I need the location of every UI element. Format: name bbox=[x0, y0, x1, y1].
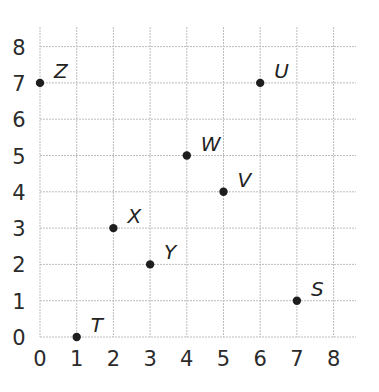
point-label: X bbox=[126, 204, 142, 228]
point-marker bbox=[256, 79, 264, 87]
x-tick-label: 3 bbox=[143, 347, 156, 371]
point-marker bbox=[219, 188, 227, 196]
point-marker bbox=[293, 297, 301, 305]
data-point-w: W bbox=[183, 132, 222, 160]
y-tick-label: 3 bbox=[12, 217, 25, 241]
point-marker bbox=[73, 333, 81, 341]
point-label: Z bbox=[53, 59, 69, 83]
y-axis-ticks: 012345678 bbox=[12, 36, 25, 350]
coordinate-grid: 012345678 012345678 ZUWVXYST bbox=[0, 0, 379, 392]
point-marker bbox=[109, 224, 117, 232]
y-tick-label: 4 bbox=[12, 181, 25, 205]
x-tick-label: 5 bbox=[217, 347, 230, 371]
y-tick-label: 5 bbox=[12, 145, 25, 169]
point-label: Y bbox=[164, 240, 178, 264]
y-tick-label: 1 bbox=[12, 290, 25, 314]
point-label: W bbox=[201, 132, 222, 156]
point-label: T bbox=[91, 313, 105, 337]
x-tick-label: 6 bbox=[254, 347, 267, 371]
grid-lines bbox=[40, 27, 356, 337]
x-tick-label: 0 bbox=[33, 347, 46, 371]
point-marker bbox=[146, 260, 154, 268]
data-points: ZUWVXYST bbox=[36, 59, 324, 341]
y-tick-label: 2 bbox=[12, 253, 25, 277]
x-tick-label: 2 bbox=[107, 347, 120, 371]
x-tick-label: 1 bbox=[70, 347, 83, 371]
point-label: U bbox=[274, 59, 289, 83]
y-tick-label: 0 bbox=[12, 326, 25, 350]
x-tick-label: 8 bbox=[327, 347, 340, 371]
y-tick-label: 7 bbox=[12, 72, 25, 96]
x-axis-ticks: 012345678 bbox=[33, 347, 340, 371]
point-marker bbox=[183, 151, 191, 159]
point-marker bbox=[36, 79, 44, 87]
x-tick-label: 4 bbox=[180, 347, 193, 371]
x-tick-label: 7 bbox=[290, 347, 303, 371]
point-label: S bbox=[311, 277, 324, 301]
y-tick-label: 6 bbox=[12, 108, 25, 132]
point-label: V bbox=[238, 168, 253, 192]
y-tick-label: 8 bbox=[12, 36, 25, 60]
